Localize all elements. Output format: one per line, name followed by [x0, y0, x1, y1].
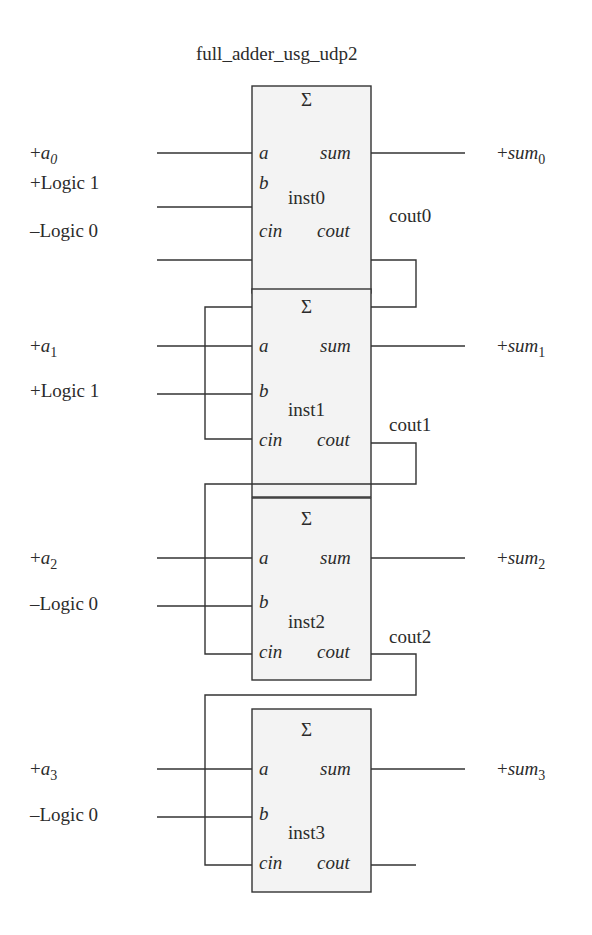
- input-label-a3: +a3: [30, 759, 57, 783]
- port-b-inst0: b: [259, 173, 269, 192]
- input-label-a2: +a2: [30, 548, 57, 572]
- port-a-inst2: a: [259, 548, 269, 567]
- carry-label-cout0: cout0: [389, 206, 431, 225]
- output-label-sum0: +sum0: [497, 143, 545, 167]
- output-label-sum1: +sum1: [497, 336, 545, 360]
- output-label-sum3: +sum3: [497, 759, 545, 783]
- input-label-a0: +a0: [30, 143, 57, 167]
- port-cout-inst1: cout: [317, 430, 350, 449]
- port-b-inst1: b: [259, 381, 269, 400]
- input-label-cin0: –Logic 0: [30, 221, 98, 240]
- port-a-inst1: a: [259, 336, 269, 355]
- carry-label-cout1: cout1: [389, 415, 431, 434]
- port-a-inst0: a: [259, 143, 269, 162]
- port-sum-inst0: sum: [320, 143, 351, 162]
- input-label-b3: –Logic 0: [30, 805, 98, 824]
- instance-label-inst2: inst2: [288, 612, 325, 631]
- sigma-symbol-inst3: Σ: [301, 720, 312, 739]
- port-sum-inst3: sum: [320, 759, 351, 778]
- port-cin-inst3: cin: [259, 853, 282, 872]
- sigma-symbol-inst1: Σ: [301, 297, 312, 316]
- sigma-symbol-inst0: Σ: [301, 90, 312, 109]
- port-sum-inst2: sum: [320, 548, 351, 567]
- port-cout-inst3: cout: [317, 853, 350, 872]
- input-label-b0: +Logic 1: [30, 173, 99, 192]
- schematic-canvas: [0, 0, 592, 935]
- instance-label-inst3: inst3: [288, 823, 325, 842]
- port-cin-inst2: cin: [259, 642, 282, 661]
- port-a-inst3: a: [259, 759, 269, 778]
- instance-label-inst1: inst1: [288, 400, 325, 419]
- port-b-inst3: b: [259, 804, 269, 823]
- input-label-b2: –Logic 0: [30, 594, 98, 613]
- port-cin-inst1: cin: [259, 430, 282, 449]
- output-label-sum2: +sum2: [497, 548, 545, 572]
- port-cin-inst0: cin: [259, 221, 282, 240]
- input-label-a1: +a1: [30, 336, 57, 360]
- full-adder-block-inst1: [252, 289, 371, 497]
- port-b-inst2: b: [259, 592, 269, 611]
- port-cout-inst0: cout: [317, 221, 350, 240]
- input-label-b1: +Logic 1: [30, 381, 99, 400]
- instance-label-inst0: inst0: [288, 188, 325, 207]
- port-cout-inst2: cout: [317, 642, 350, 661]
- port-sum-inst1: sum: [320, 336, 351, 355]
- diagram-title: full_adder_usg_udp2: [196, 44, 357, 63]
- sigma-symbol-inst2: Σ: [301, 509, 312, 528]
- carry-label-cout2: cout2: [389, 627, 431, 646]
